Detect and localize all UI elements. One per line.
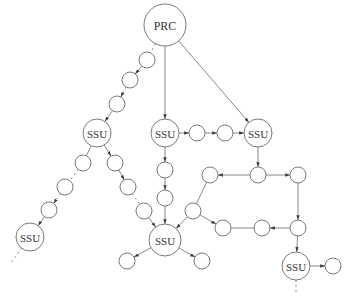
node-intermediate-e2: [120, 179, 136, 195]
edge-e1-to-e2: [119, 170, 124, 180]
node-circle: [136, 203, 152, 219]
node-circle: [75, 155, 91, 171]
nodes-layer: PRCSSUSSUSSUSSUSSUSSU: [16, 4, 341, 280]
sync-network-diagram: PRCSSUSSUSSUSSUSSUSSU: [0, 0, 350, 296]
node-circle: [250, 167, 266, 183]
node-intermediate-d3: [41, 202, 57, 218]
node-circle: [109, 96, 125, 112]
edge-e3-to-ssu_c: [149, 218, 156, 228]
node-intermediate-f3: [290, 167, 306, 183]
node-ssu-ssu_br: SSU: [282, 252, 310, 280]
node-circle: [185, 203, 201, 219]
node-label: SSU: [155, 235, 175, 247]
edge-d1-to-d2: [70, 169, 78, 180]
edge-f7-to-ssu_br: [297, 236, 298, 252]
edge-f4-to-f5: [200, 215, 216, 224]
edge-d2-to-d3: [54, 194, 61, 204]
node-circle: [41, 202, 57, 218]
edge-ssu_c-to-g1: [134, 248, 151, 257]
node-intermediate-d1: [75, 155, 91, 171]
node-intermediate-e1: [107, 155, 123, 171]
node-circle: [119, 253, 135, 269]
edge-f4-to-ssu_c: [176, 217, 187, 229]
edge-a1-to-a2: [135, 66, 142, 74]
node-intermediate-f4: [185, 203, 201, 219]
node-label: SSU: [155, 128, 175, 140]
node-prc-prc: PRC: [144, 4, 186, 46]
node-intermediate-f2: [202, 167, 218, 183]
edge-f2-to-f4: [196, 182, 206, 204]
node-ssu-ssu_c: SSU: [149, 224, 181, 256]
node-label: SSU: [87, 128, 107, 140]
node-ssu-ssu_l: SSU: [83, 119, 111, 147]
node-ssu-ssu_r: SSU: [244, 119, 272, 147]
edge-ssu_c-to-g2: [179, 248, 195, 257]
node-intermediate-f6: [254, 220, 270, 236]
node-intermediate-a1: [139, 52, 155, 68]
node-intermediate-g1: [119, 253, 135, 269]
edge-e2-to-e3: [132, 194, 139, 205]
edge-a2-to-a3: [121, 87, 126, 97]
node-circle: [290, 167, 306, 183]
node-circle: [107, 155, 123, 171]
node-circle: [202, 167, 218, 183]
node-intermediate-a2: [122, 72, 138, 88]
edge-prc-to-ssu_r: [179, 41, 249, 123]
node-intermediate-c1: [157, 162, 173, 178]
node-intermediate-f5: [215, 220, 231, 236]
node-intermediate-b2: [217, 125, 233, 141]
node-label: SSU: [248, 128, 268, 140]
node-intermediate-f7: [290, 220, 306, 236]
node-label: SSU: [286, 261, 306, 273]
node-intermediate-e3: [136, 203, 152, 219]
node-intermediate-d2: [57, 179, 73, 195]
node-intermediate-a3: [109, 96, 125, 112]
node-intermediate-c2: [157, 190, 173, 206]
node-circle: [290, 220, 306, 236]
edge-ssu_l-to-e1: [104, 145, 111, 156]
continuation-edge-ssu_bl: [10, 248, 22, 264]
node-circle: [57, 179, 73, 195]
node-label: PRC: [154, 19, 177, 33]
edge-a3-to-ssu_l: [105, 111, 113, 122]
node-circle: [215, 220, 231, 236]
node-label: SSU: [20, 232, 40, 244]
node-circle: [139, 52, 155, 68]
node-circle: [254, 220, 270, 236]
edge-prc-to-a1: [151, 44, 156, 53]
node-ssu-ssu_m: SSU: [151, 119, 179, 147]
node-circle: [194, 253, 210, 269]
node-intermediate-h1: [325, 258, 341, 274]
edge-d3-to-ssu_bl: [38, 217, 44, 226]
node-ssu-ssu_bl: SSU: [16, 223, 44, 251]
node-circle: [325, 258, 341, 274]
node-circle: [157, 162, 173, 178]
node-circle: [189, 125, 205, 141]
node-intermediate-f1: [250, 167, 266, 183]
node-circle: [157, 190, 173, 206]
edge-ssu_l-to-d1: [86, 146, 91, 156]
node-intermediate-b1: [189, 125, 205, 141]
node-intermediate-g2: [194, 253, 210, 269]
node-circle: [122, 72, 138, 88]
node-circle: [217, 125, 233, 141]
node-circle: [120, 179, 136, 195]
